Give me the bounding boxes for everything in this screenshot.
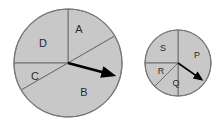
left-spinner-label-d: D: [39, 37, 47, 49]
right-spinner-label-q: Q: [172, 78, 179, 88]
right-spinner: PSRQ: [145, 30, 211, 96]
right-spinner-label-r: R: [158, 66, 165, 76]
right-spinner-label-s: S: [160, 43, 166, 53]
left-spinner-label-c: C: [31, 70, 39, 82]
left-spinner-label-a: A: [75, 23, 83, 35]
left-spinner: ADCB: [14, 9, 122, 117]
right-spinner-label-p: P: [194, 50, 200, 60]
spinner-figure: ADCBPSRQ: [0, 0, 224, 127]
spinner-diagram: ADCBPSRQ: [0, 0, 224, 127]
right-spinner-sector-p[interactable]: [178, 30, 211, 96]
left-spinner-label-b: B: [80, 86, 87, 98]
